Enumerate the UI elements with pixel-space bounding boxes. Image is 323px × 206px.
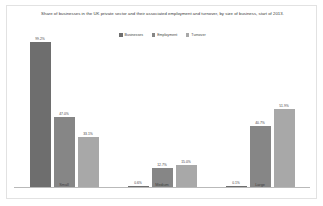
bar-wrap-small-businesses: 99.2% (30, 37, 51, 187)
bar-wrap-large-employment: 40.7% (250, 37, 271, 187)
x-tick-label-medium: Medium (115, 183, 209, 187)
bar-group-large-bars: 0.1% 40.7% 51.9% (213, 37, 307, 187)
bar-group-medium-bars: 0.6% 12.7% 15.0% (115, 37, 209, 187)
bar-label-large-turnover: 51.9% (279, 104, 289, 108)
bar-wrap-small-turnover: 33.1% (78, 37, 99, 187)
bar-large-turnover[interactable] (274, 109, 295, 187)
bar-wrap-small-employment: 47.0% (54, 37, 75, 187)
bar-group-small-bars: 99.2% 47.0% 33.1% (17, 37, 111, 187)
bar-label-large-employment: 40.7% (255, 121, 265, 125)
bar-group-medium: 0.6% 12.7% 15.0% Medium (115, 27, 209, 187)
x-tick-label-large: Large (213, 183, 307, 187)
x-axis-line (14, 187, 310, 188)
bar-wrap-medium-employment: 12.7% (152, 37, 173, 187)
bar-wrap-large-turnover: 51.9% (274, 37, 295, 187)
bar-wrap-large-businesses: 0.1% (226, 37, 247, 187)
plot-area: 99.2% 47.0% 33.1% Small 0.6% (7, 6, 318, 200)
bar-group-large: 0.1% 40.7% 51.9% Large (213, 27, 307, 187)
bar-group-small: 99.2% 47.0% 33.1% Small (17, 27, 111, 187)
bar-small-turnover[interactable] (78, 137, 99, 187)
bar-wrap-medium-turnover: 15.0% (176, 37, 197, 187)
bar-wrap-medium-businesses: 0.6% (128, 37, 149, 187)
bar-label-medium-employment: 12.7% (157, 163, 167, 167)
x-tick-label-small: Small (17, 183, 111, 187)
bar-label-small-turnover: 33.1% (83, 132, 93, 136)
bar-small-employment[interactable] (54, 117, 75, 188)
bar-label-medium-turnover: 15.0% (181, 160, 191, 164)
bar-large-employment[interactable] (250, 126, 271, 187)
bar-label-small-employment: 47.0% (59, 112, 69, 116)
bar-small-businesses[interactable] (30, 42, 51, 187)
bar-label-small-businesses: 99.2% (35, 37, 45, 41)
chart-container: Share of businesses in the UK private se… (6, 5, 317, 199)
